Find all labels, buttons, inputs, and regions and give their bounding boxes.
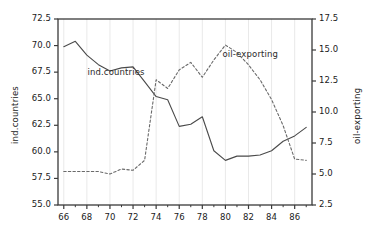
xtick-label: 68 xyxy=(79,212,95,222)
axis-tickmarks xyxy=(54,19,316,209)
left-axis-title: ind.countries xyxy=(10,86,20,144)
ytick-label-left: 55.0 xyxy=(32,199,51,209)
ytick-label-left: 60.0 xyxy=(32,146,51,156)
series-line-oil-exporting xyxy=(64,45,306,174)
ytick-label-right: 7.5 xyxy=(319,137,333,147)
series-annotation: ind.countries xyxy=(87,67,144,77)
ytick-label-right: 2.5 xyxy=(319,199,333,209)
series-line-ind-countries xyxy=(64,41,306,160)
gridlines xyxy=(64,19,295,205)
xtick-label: 70 xyxy=(102,212,118,222)
chart-container: ind.countries oil-exporting 55.057.560.0… xyxy=(0,0,367,240)
chart-plot xyxy=(0,0,367,240)
xtick-label: 74 xyxy=(148,212,164,222)
ytick-label-left: 65.0 xyxy=(32,93,51,103)
ytick-label-left: 62.5 xyxy=(32,119,51,129)
ytick-label-right: 15.0 xyxy=(319,44,338,54)
xtick-label: 72 xyxy=(125,212,141,222)
ytick-label-left: 72.5 xyxy=(32,13,51,23)
ytick-label-left: 57.5 xyxy=(32,172,51,182)
data-series xyxy=(64,41,306,174)
xtick-label: 80 xyxy=(217,212,233,222)
xtick-label: 76 xyxy=(171,212,187,222)
right-axis-title: oil-exporting xyxy=(352,88,362,144)
series-annotation: oil-exporting xyxy=(223,49,279,59)
ytick-label-right: 10.0 xyxy=(319,106,338,116)
xtick-label: 82 xyxy=(241,212,257,222)
ytick-label-right: 12.5 xyxy=(319,75,338,85)
ytick-label-left: 70.0 xyxy=(32,40,51,50)
ytick-label-right: 5.0 xyxy=(319,168,333,178)
ytick-label-left: 67.5 xyxy=(32,66,51,76)
xtick-label: 84 xyxy=(264,212,280,222)
plot-frame xyxy=(58,19,312,205)
xtick-label: 86 xyxy=(287,212,303,222)
plot-border xyxy=(58,19,312,205)
ytick-label-right: 17.5 xyxy=(319,13,338,23)
xtick-label: 66 xyxy=(56,212,72,222)
xtick-label: 78 xyxy=(194,212,210,222)
